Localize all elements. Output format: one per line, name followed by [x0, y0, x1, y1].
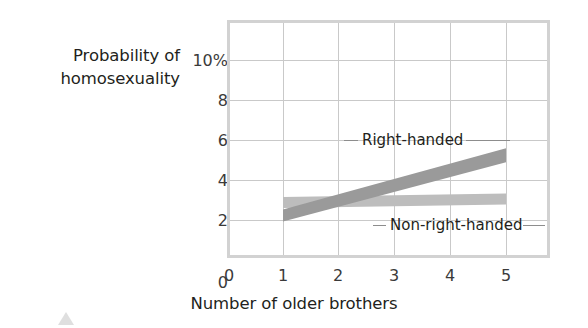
x-tick-label-2: 2: [323, 266, 353, 285]
x-tick-label-0: 0: [214, 266, 244, 285]
leader-line-right-handed-right: [466, 140, 510, 141]
y-tick-label-2: 2: [180, 211, 228, 230]
corner-artifact-triangle-icon: [58, 312, 74, 325]
x-tick-label-3: 3: [379, 266, 409, 285]
y-tick-label-4: 4: [180, 171, 228, 190]
y-axis-title-line-2: homosexuality: [8, 67, 180, 90]
chart-figure: Probability of homosexuality 10% 8 6 4 2…: [0, 0, 588, 328]
leader-line-non-right-handed-right: [523, 225, 545, 226]
x-axis-title: Number of older brothers: [0, 294, 588, 313]
y-tick-label-10: 10%: [166, 51, 228, 70]
x-tick-label-1: 1: [268, 266, 298, 285]
band-right-handed: [283, 148, 506, 221]
annotation-right-handed: Right-handed: [362, 131, 463, 149]
y-tick-label-8: 8: [180, 91, 228, 110]
x-tick-label-4: 4: [435, 266, 465, 285]
leader-line-right-handed-left: [344, 140, 358, 141]
y-axis-title-line-1: Probability of: [8, 44, 180, 67]
annotation-non-right-handed: Non-right-handed: [390, 216, 522, 234]
y-axis-title: Probability of homosexuality: [8, 44, 180, 90]
y-tick-label-6: 6: [180, 131, 228, 150]
x-tick-label-5: 5: [491, 266, 521, 285]
leader-line-non-right-handed-left: [373, 225, 386, 226]
